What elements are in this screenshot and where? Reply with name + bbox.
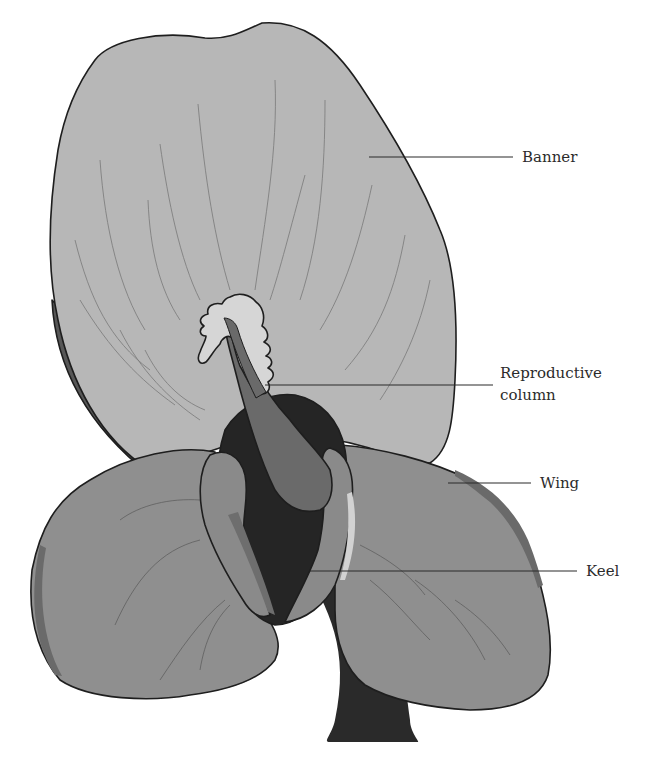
reproductive-column-label-line2: column <box>500 384 602 406</box>
banner-label: Banner <box>522 146 577 168</box>
reproductive-column-label-line1: Reproductive <box>500 362 602 384</box>
wing-label: Wing <box>540 472 579 494</box>
keel-label: Keel <box>586 560 619 582</box>
reproductive-column-label: Reproductive column <box>500 362 602 406</box>
right-wing <box>335 445 550 710</box>
